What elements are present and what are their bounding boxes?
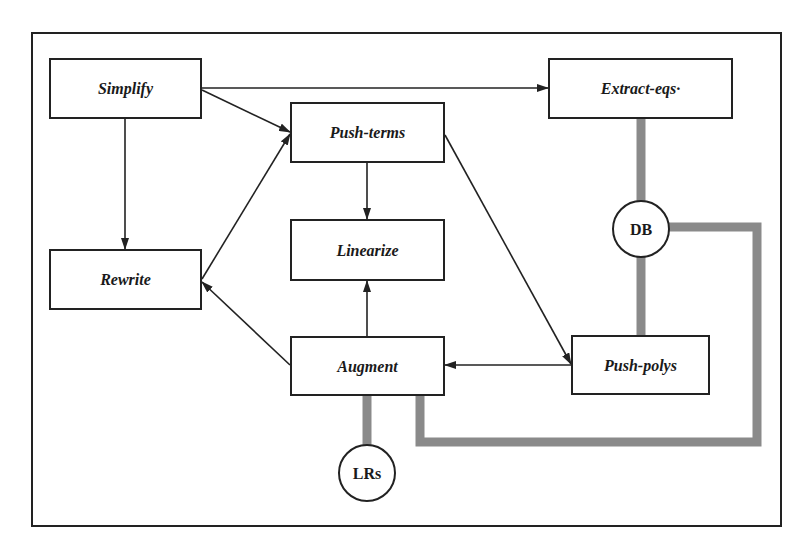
node-push-polys: Push-polys xyxy=(572,336,709,394)
node-label-augment: Augment xyxy=(336,358,398,376)
store-db: DB xyxy=(613,201,669,257)
edge-push-terms-push-polys xyxy=(445,135,571,364)
node-label-simplify: Simplify xyxy=(98,80,154,98)
flowchart-diagram: Simplify Extract-eqs· Push-terms Lineari… xyxy=(0,0,811,550)
node-extract-eqs: Extract-eqs· xyxy=(549,59,732,118)
node-rewrite: Rewrite xyxy=(50,250,201,309)
edge-rewrite-push-terms xyxy=(202,134,290,279)
node-simplify: Simplify xyxy=(50,59,201,118)
store-label-db: DB xyxy=(630,221,653,238)
node-label-push-polys: Push-polys xyxy=(603,357,677,375)
node-push-terms: Push-terms xyxy=(291,103,444,162)
node-label-extract-eqs: Extract-eqs· xyxy=(600,80,681,98)
data-link-db-augment-loop xyxy=(420,227,757,442)
node-linearize: Linearize xyxy=(291,220,444,280)
edge-simplify-push-terms xyxy=(202,90,290,132)
store-lrs: LRs xyxy=(339,445,395,501)
store-label-lrs: LRs xyxy=(353,465,381,482)
node-augment: Augment xyxy=(291,337,444,395)
data-links xyxy=(367,118,757,446)
edge-augment-rewrite xyxy=(202,282,290,365)
node-label-push-terms: Push-terms xyxy=(329,124,406,141)
node-label-rewrite: Rewrite xyxy=(99,271,151,288)
node-label-linearize: Linearize xyxy=(335,242,398,259)
